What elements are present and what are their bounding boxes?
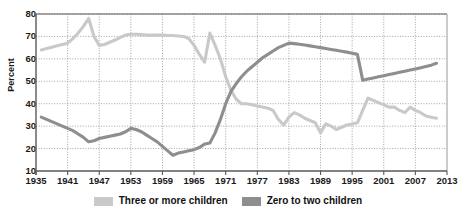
legend-swatch [242, 197, 261, 206]
legend-item[interactable]: Zero to two children [242, 196, 363, 206]
chart-legend: Three or more childrenZero to two childr… [0, 196, 456, 206]
legend-label: Zero to two children [267, 196, 363, 206]
legend-swatch [94, 197, 113, 206]
legend-item[interactable]: Three or more children [94, 196, 228, 206]
series-line [41, 43, 436, 155]
legend-label: Three or more children [119, 196, 228, 206]
